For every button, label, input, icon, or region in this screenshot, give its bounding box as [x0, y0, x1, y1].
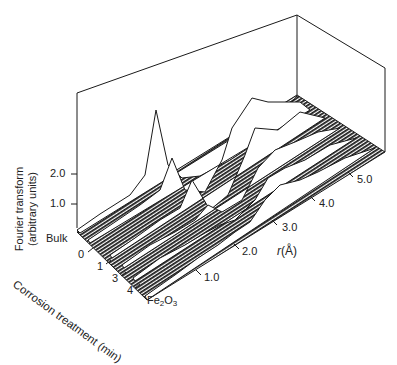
z-tick-1: 1 — [97, 260, 103, 272]
r-tick-1: 1.0 — [204, 271, 219, 283]
r-axis-label: r(Å) — [277, 244, 297, 258]
y-axis-label: Fourier transform (arbitrary units) — [13, 149, 39, 269]
z-tick-bulk: Bulk — [46, 232, 67, 244]
r-tick-3: 3.0 — [282, 221, 297, 233]
r-tick-4: 4.0 — [319, 197, 334, 209]
r-tick-5: 5.0 — [357, 173, 372, 185]
y-tick-2: 2.0 — [50, 167, 65, 179]
z-tick-0: 0 — [78, 248, 84, 260]
y-axis-label-line1: Fourier transform — [13, 149, 26, 269]
z-tick-3: 3 — [112, 272, 118, 284]
z-tick-4: 4 — [127, 284, 133, 296]
y-tick-1: 1.0 — [50, 197, 65, 209]
r-tick-2: 2.0 — [242, 245, 257, 257]
z-tick-fe2o3: Fe2O3 — [147, 294, 177, 308]
y-axis-ticks — [71, 174, 77, 204]
floor — [77, 95, 385, 300]
y-axis-label-line2: (arbitrary units) — [26, 149, 39, 269]
